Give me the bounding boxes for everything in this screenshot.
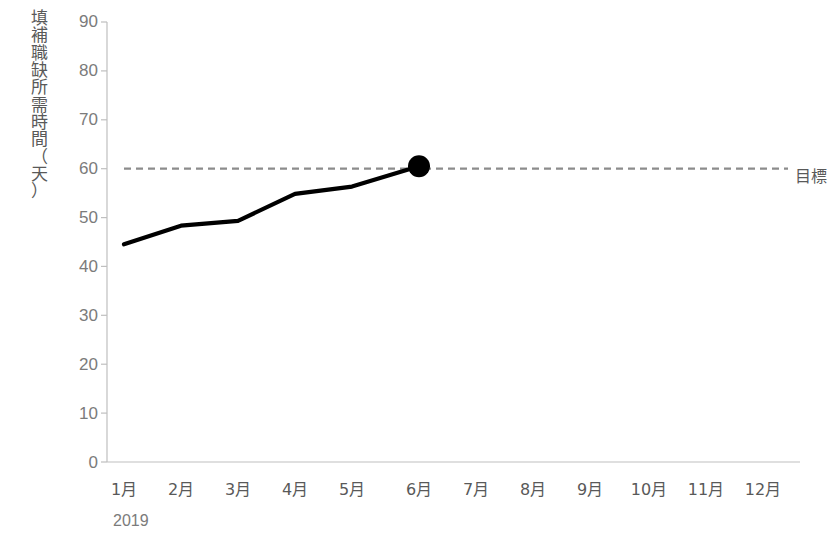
- x-tick-label-10: 10月: [619, 476, 679, 500]
- x-tick-label-11: 11月: [676, 476, 736, 500]
- x-tick-label-6: 6月: [393, 476, 445, 500]
- x-tick-label-9: 9月: [564, 476, 616, 500]
- line-chart: 填 補 職 缺 所 需 時 間 （ 天 ） 90 80 70 60 50 40 …: [0, 0, 837, 554]
- y-axis-ticks: [101, 22, 107, 462]
- target-line-legend-label: 目標: [795, 163, 827, 187]
- x-tick-label-12: 12月: [733, 476, 793, 500]
- x-tick-label-5: 5月: [326, 476, 378, 500]
- x-tick-label-1: 1月: [98, 476, 150, 500]
- x-tick-label-7: 7月: [450, 476, 502, 500]
- x-tick-label-3: 3月: [212, 476, 264, 500]
- x-tick-label-2: 2月: [155, 476, 207, 500]
- x-tick-label-8: 8月: [507, 476, 559, 500]
- data-series-line: [124, 166, 419, 244]
- data-point-marker-june: [408, 155, 430, 177]
- plot-area: [0, 0, 837, 554]
- x-axis-year-label: 2019: [113, 512, 149, 530]
- x-tick-label-4: 4月: [269, 476, 321, 500]
